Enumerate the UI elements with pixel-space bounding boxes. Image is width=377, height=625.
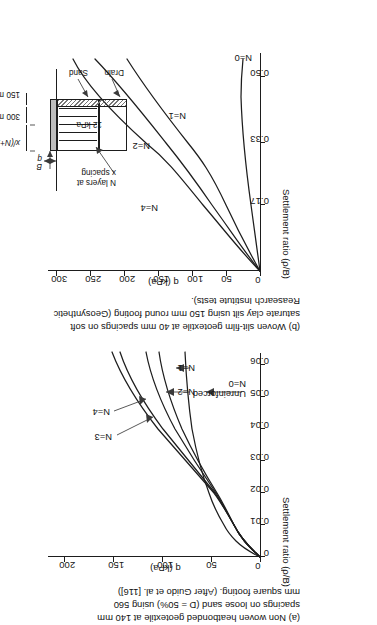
inset-label-depth-150: 150 mm <box>0 90 20 99</box>
panel-a-leader-n4 <box>114 396 146 411</box>
panel-a-leader-n3 <box>117 414 153 435</box>
panel-b-series-label-n4: N=4 <box>141 203 158 213</box>
inset-label-depth-300: 300 mm <box>0 112 20 121</box>
panel-b-series-label-n1: N=1 <box>169 111 186 121</box>
inset-dim-line-spacing <box>26 125 27 151</box>
panel-a-chart: 0 50 100 150 200 q (kPa) 0 0.01 0.02 0.0… <box>40 347 290 597</box>
panel-a-caption: (a) Non woven heatbonded geotextile at 1… <box>90 585 300 625</box>
panel-b-chart: 0 50 100 150 200 250 300 q (kPa) 0.17 0.… <box>40 49 290 309</box>
panel-b-series-label-n0: N=0 <box>235 53 252 63</box>
panel-b-caption: (b) Woven slit-film geotextile at 40 mm … <box>50 294 300 334</box>
panel-a-series-label-n3: N=3 <box>95 432 112 442</box>
curve-n0 <box>241 59 260 271</box>
panel-b-inset: B q 12 kPa N layers at x spacing Drain S… <box>38 51 146 191</box>
panel-a-series-label-n1: N=1 <box>178 363 195 373</box>
panel-a-series-label-n4: N=4 <box>93 407 110 417</box>
inset-dim-line-300 <box>26 107 27 123</box>
curve-n1 <box>127 59 260 271</box>
inset-label-spacing: x/(N+1) <box>0 138 20 147</box>
inset-dim-line-150 <box>26 93 27 105</box>
inset-dimensions <box>38 51 146 191</box>
panel-a-curves <box>40 347 290 597</box>
panel-a-series-label-unreinforced: Unreinforced N=0 <box>193 379 246 399</box>
